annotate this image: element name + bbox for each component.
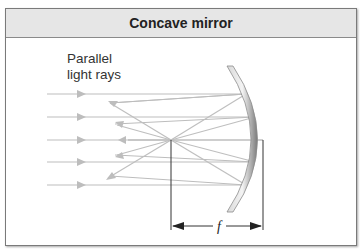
ray-arrow-icons (77, 90, 86, 189)
focal-length-label: f (217, 219, 223, 234)
concave-mirror-diagram: f (0, 0, 364, 250)
mirror-icon (227, 66, 258, 212)
